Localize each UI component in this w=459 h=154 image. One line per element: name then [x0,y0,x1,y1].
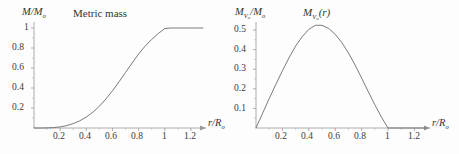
y-tick-label: 0.8 [12,43,24,53]
x-axis-title-subscript: o [445,123,448,130]
x-tick-label: 0.2 [53,132,65,142]
y-axis-title: MVo/Mo [235,7,265,18]
y-axis-title-subsubscript: o [248,15,251,20]
x-tick-label: 0.8 [131,132,143,142]
curve-metric-mass [34,28,203,128]
y-tick-label: 0.2 [12,103,24,113]
plot-svg-right [230,0,459,154]
y-tick-label: 0.1 [234,104,246,114]
y-tick-marks [253,30,256,108]
plot-title-main: M [303,6,312,18]
y-axis-title: M/Mo [22,7,46,18]
figure-root: M/Mo Metric mass r/Ro 0.2 0.4 0.6 0.8 1 … [0,0,459,154]
x-tick-label: 0.4 [79,132,91,142]
plot-title: Metric mass [73,8,127,19]
y-tick-label: 0.2 [234,84,246,94]
y-axis-title-main: M [235,6,244,17]
plot-title: MVo(r) [303,7,330,18]
y-axis-title-main: M/M [22,6,42,17]
plot-title-tail: (r) [319,6,331,18]
y-tick-label: 0.6 [12,63,24,73]
x-axis-title-main: r/R [208,117,221,128]
y-axis-title-tail-subscript: o [262,12,265,19]
x-tick-label: 1.2 [184,132,196,142]
chart-panel-volume-mass: MVo/Mo MVo(r) r/Ro 0.2 0.4 0.6 0.8 1 1.2… [230,0,459,154]
y-tick-label: 0.4 [12,83,24,93]
x-tick-label: 0.8 [354,132,366,142]
x-tick-label: 1 [385,132,390,142]
y-tick-label: 0.3 [234,64,246,74]
x-tick-label: 1 [162,132,167,142]
chart-panel-metric-mass: M/Mo Metric mass r/Ro 0.2 0.4 0.6 0.8 1 … [0,0,229,154]
x-axis-title: r/Ro [208,118,225,129]
y-tick-label: 0.5 [234,25,246,35]
x-axis-title: r/Ro [432,118,449,129]
x-tick-label: 0.6 [105,132,117,142]
x-axis-title-subscript: o [221,123,224,130]
x-tick-label: 1.2 [408,132,420,142]
y-axis-title-subscript: o [42,12,45,19]
curve-volume-mass [256,25,426,128]
x-tick-label: 0.2 [275,132,287,142]
plot-title-subsubscript: o [316,16,319,21]
x-tick-label: 0.6 [328,132,340,142]
y-tick-label: 0.4 [234,45,246,55]
x-axis-arrow [200,126,206,131]
y-axis-title-tail: /M [250,6,262,17]
x-axis-title-main: r/R [432,117,445,128]
y-tick-label: 1 [24,23,29,33]
y-tick-marks [31,28,34,108]
x-tick-label: 0.4 [301,132,313,142]
